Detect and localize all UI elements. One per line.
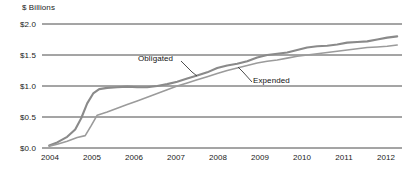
spending-line-chart: $ Billions $2.0 $1.5 $1.0 $0.5 $0.0 2004… xyxy=(0,0,410,174)
series-label-expended: Expended xyxy=(253,76,290,85)
obligated-leader-line xyxy=(181,61,197,76)
series-line-expended xyxy=(49,45,397,146)
plot-area xyxy=(0,0,410,174)
series-label-obligated: Obligated xyxy=(138,54,173,63)
series-line-obligated xyxy=(49,36,397,145)
expended-leader-line xyxy=(238,67,252,82)
